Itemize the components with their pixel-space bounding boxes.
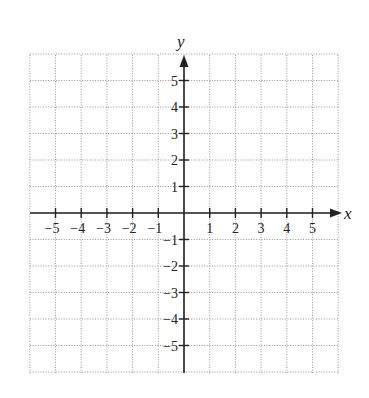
x-tick-label: −2	[122, 221, 137, 236]
x-axis-arrow-icon	[330, 209, 342, 218]
x-tick-label: −5	[45, 221, 60, 236]
coordinate-plane: x y −5−4−3−2−11234554321−1−2−3−4−5	[0, 0, 369, 398]
y-axis-label: y	[175, 32, 185, 51]
y-axis-arrow-icon	[180, 55, 189, 67]
y-tick-label: −3	[163, 286, 178, 301]
axes: x y	[30, 32, 352, 373]
y-tick-label: 3	[171, 127, 178, 142]
x-tick-label: −3	[96, 221, 111, 236]
x-tick-label: −1	[147, 221, 162, 236]
y-tick-label: −5	[163, 339, 178, 354]
y-tick-label: 5	[171, 74, 178, 89]
x-tick-label: 3	[258, 221, 265, 236]
y-tick-label: −4	[163, 312, 178, 327]
x-tick-label: 1	[206, 221, 213, 236]
x-tick-label: 4	[283, 221, 290, 236]
y-tick-label: −1	[163, 233, 178, 248]
y-tick-label: 4	[171, 100, 178, 115]
y-tick-label: 2	[171, 153, 178, 168]
x-tick-label: 5	[309, 221, 316, 236]
x-tick-label: −4	[70, 221, 85, 236]
x-tick-label: 2	[232, 221, 239, 236]
y-tick-label: 1	[171, 180, 178, 195]
x-axis-label: x	[343, 204, 352, 223]
y-tick-label: −2	[163, 259, 178, 274]
